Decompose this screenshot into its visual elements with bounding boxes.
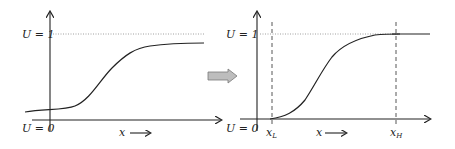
left-x-label: x bbox=[119, 126, 126, 139]
xL-label: xL bbox=[266, 126, 277, 140]
xH-label: xH bbox=[390, 126, 403, 140]
right-u1-label: U = 1 bbox=[226, 28, 258, 41]
left-u0-label: U = 0 bbox=[22, 122, 54, 135]
left-u1-label: U = 1 bbox=[22, 28, 54, 41]
right-x-label: x bbox=[316, 126, 323, 139]
left-utility-curve bbox=[25, 43, 204, 112]
right-panel: U = 1 U = 0 xL x xH bbox=[226, 12, 430, 140]
utility-transformation-diagram: U = 1 U = 0 x U = 1 U = 0 xL x xH bbox=[0, 0, 455, 149]
right-u0-label: U = 0 bbox=[226, 122, 258, 135]
left-panel: U = 1 U = 0 x bbox=[22, 12, 221, 139]
transition-arrow-icon bbox=[208, 69, 237, 83]
right-utility-curve bbox=[270, 34, 400, 119]
